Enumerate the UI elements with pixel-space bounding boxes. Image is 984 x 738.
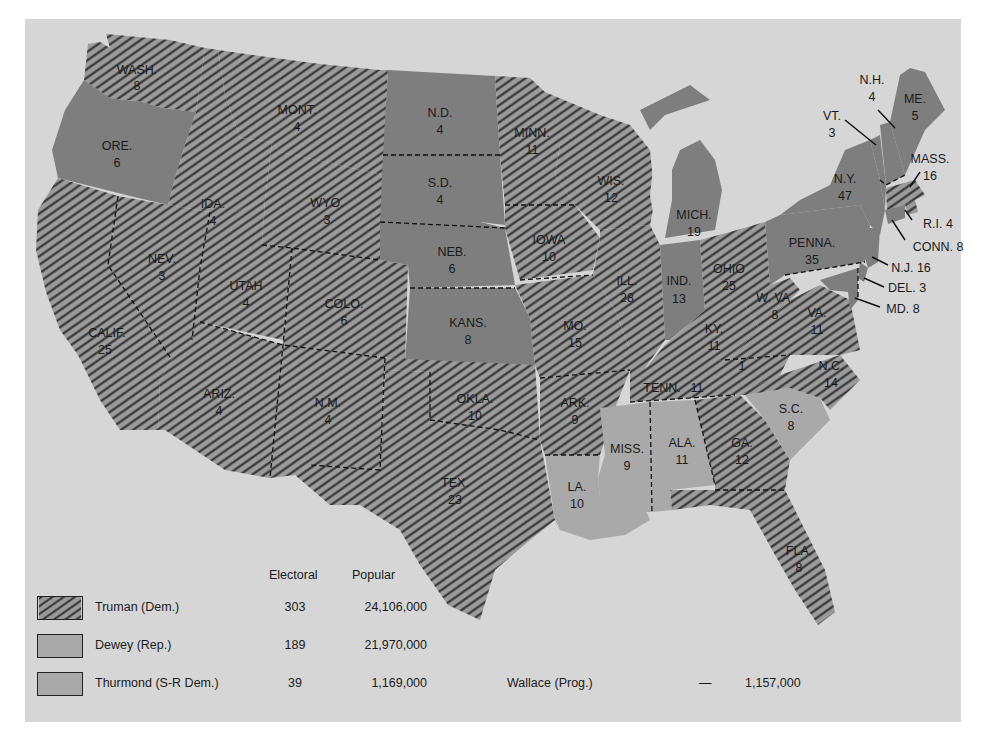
label-wis-ev: 12 [604,191,618,205]
label-okla-ev: 10 [468,409,482,423]
label-nm-ev: 4 [325,413,332,427]
legend-electoral: 189 [275,638,315,652]
label-ny-abbr: N.Y. [834,172,857,186]
label-me-abbr: ME. [904,92,926,106]
label-ore-ev: 6 [114,156,121,170]
label-wis-abbr: WIS. [597,174,624,188]
label-nc-ev: 14 [824,376,838,390]
label-utah-ev: 4 [243,296,250,310]
legend-wallace-label: Wallace (Prog.) [507,676,593,690]
label-nm-abbr: N.M. [315,396,341,410]
label-ill-abbr: ILL. [617,274,638,288]
label-fla-abbr: FLA. [786,544,812,558]
legend-wallace-popular: 1,157,000 [745,676,801,690]
legend-label: Dewey (Rep.) [95,638,171,652]
label-me-ev: 5 [912,109,919,123]
label-sd-abbr: S.D. [428,176,452,190]
label-colo-abbr: COLO. [325,297,364,311]
label-nc-abbr: N.C. [819,359,844,373]
label-ala-abbr: ALA. [668,436,695,450]
label-tenn-ev: 11 [691,381,704,395]
label-ri: R.I. 4 [923,217,953,231]
label-wva-abbr: W. VA. [756,291,793,305]
label-del: DEL. 3 [888,281,926,295]
label-ida-ev: 4 [210,214,217,228]
label-kans-abbr: KANS. [449,316,487,330]
thurmond-swatch [37,672,83,696]
label-iowa-abbr: IOWA [533,233,567,247]
label-va-ev: 11 [811,323,824,337]
label-wva-ev: 8 [772,308,779,322]
state-nj [864,228,880,268]
label-calif-abbr: CALIF. [88,326,126,340]
legend-electoral: 303 [275,600,315,614]
label-nev-ev: 3 [159,269,166,283]
label-colo-ev: 6 [341,314,348,328]
state-miss [598,402,652,512]
label-sc-abbr: S.C. [779,402,803,416]
label-wyo-ev: 3 [324,213,331,227]
legend-popular: 1,169,000 [333,676,427,690]
label-la-abbr: LA. [568,480,587,494]
label-mich-ev: 19 [687,225,701,239]
legend-header-electoral: Electoral [269,568,318,582]
label-mo-ev: 15 [568,336,582,350]
state-sd [380,155,505,225]
legend-electoral: 39 [275,676,315,690]
label-mont-ev: 4 [294,120,301,134]
label-sd-ev: 4 [437,193,444,207]
label-ore-abbr: ORE. [102,139,133,153]
dewey-swatch [37,634,83,658]
label-mass-ev: 16 [923,169,937,183]
label-utah-abbr: UTAH [229,279,262,293]
label-ida-abbr: IDA. [201,197,225,211]
legend-wallace-electoral: — [699,676,712,690]
legend-label: Thurmond (S-R Dem.) [95,676,219,690]
legend: Electoral Popular Truman (Dem.) 303 24,1… [37,568,937,718]
label-tenn-abbr: TENN. [643,381,681,395]
label-ky-ev: 11 [708,339,721,353]
label-nh-ev: 4 [869,90,876,104]
label-ala-ev: 11 [676,453,689,467]
label-minn-ev: 11 [526,143,539,157]
label-ind-abbr: IND. [667,274,692,288]
label-ind-ev: 13 [672,292,686,306]
label-mass-abbr: MASS. [911,152,950,166]
label-ariz-abbr: ARIZ. [203,387,235,401]
label-nd-abbr: N.D. [428,106,453,120]
label-tex-abbr: TEX. [441,476,469,490]
label-miss-ev: 9 [624,459,631,473]
label-mont-abbr: MONT. [278,103,317,117]
label-wash-ev: 8 [134,79,141,93]
label-nev-abbr: NEV. [148,252,176,266]
label-tex-ev: 23 [448,493,462,507]
label-ark-abbr: ARK. [560,396,589,410]
label-ky-abbr: KY. [705,322,724,336]
state-nm [270,345,385,478]
label-vt-ev: 3 [829,126,836,140]
label-mich-abbr: MICH. [676,208,711,222]
label-ariz-ev: 4 [216,404,223,418]
legend-row-truman: Truman (Dem.) 303 24,106,000 [37,596,917,622]
label-ohio-abbr: OHIO [713,262,745,276]
label-miss-abbr: MISS. [610,442,644,456]
label-vt-abbr: VT. [823,109,841,123]
label-conn: CONN. 8 [913,240,964,254]
label-sc-ev: 8 [788,419,795,433]
label-ohio-ev: 25 [722,279,736,293]
label-md: MD. 8 [886,302,919,316]
label-neb-ev: 6 [449,262,456,276]
label-nd-ev: 4 [437,123,444,137]
label-neb-abbr: NEB. [437,245,466,259]
legend-popular: 21,970,000 [333,638,427,652]
label-ill-ev: 28 [620,291,634,305]
label-tenn-split-note: 1 [739,359,746,373]
legend-popular: 24,106,000 [333,600,427,614]
legend-label: Truman (Dem.) [95,600,179,614]
label-nj: N.J. 16 [891,261,931,275]
label-penna-abbr: PENNA. [789,236,836,250]
label-wash-abbr: WASH. [117,63,158,77]
label-calif-ev: 25 [98,343,112,357]
label-ny-ev: 47 [838,189,852,203]
label-kans-ev: 8 [465,333,472,347]
